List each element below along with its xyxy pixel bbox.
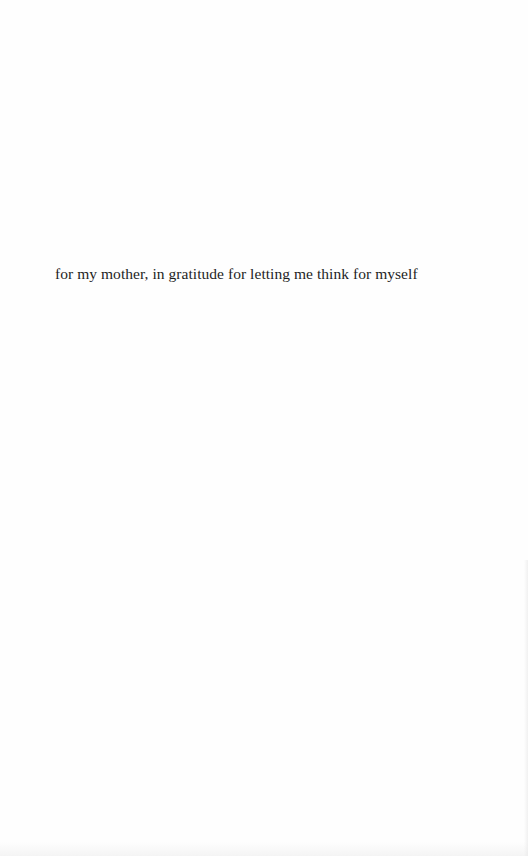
- scan-shadow-bottom: [0, 842, 528, 856]
- scan-shadow-right: [524, 560, 528, 856]
- book-page: for my mother, in gratitude for letting …: [0, 0, 528, 856]
- dedication-text: for my mother, in gratitude for letting …: [55, 264, 418, 284]
